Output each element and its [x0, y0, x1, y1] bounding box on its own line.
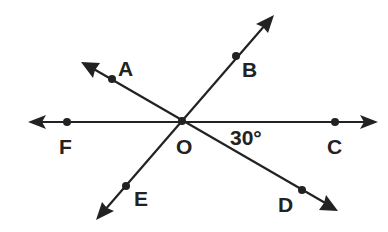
arrowhead-d-icon — [319, 195, 338, 211]
point-c — [331, 118, 339, 126]
label-d: D — [278, 193, 293, 216]
point-a — [108, 75, 116, 83]
label-e: E — [134, 187, 148, 210]
point-b — [232, 52, 240, 60]
angle-label: 30° — [230, 126, 262, 149]
label-o: O — [176, 135, 192, 158]
arrowhead-b-icon — [256, 15, 274, 33]
label-f: F — [59, 135, 72, 158]
point-d — [298, 186, 306, 194]
point-e — [122, 182, 130, 190]
point-o — [178, 117, 186, 125]
label-c: C — [327, 135, 342, 158]
label-a: A — [118, 57, 133, 80]
label-b: B — [242, 58, 257, 81]
arrowhead-e-icon — [96, 202, 114, 220]
line-eb — [96, 15, 274, 220]
point-f — [63, 118, 71, 126]
geometry-diagram: A B C D E F O 30° — [0, 0, 388, 232]
line-fc — [28, 115, 378, 129]
